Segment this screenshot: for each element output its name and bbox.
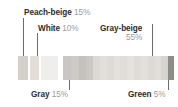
strip-segment-gray-4 (86, 56, 93, 80)
callout-name-green: Green (128, 90, 151, 99)
callout-label-green: Green 5% (128, 90, 165, 99)
strip-segment-gray-beige-4 (114, 56, 121, 80)
strip-segment-gray-beige-5 (120, 56, 127, 80)
strip-segment-gray-beige-6 (127, 56, 134, 80)
strip-segment-gray-beige-7 (134, 56, 141, 80)
callout-pct-gray: 15% (52, 90, 68, 99)
strip-segment-peach-beige (30, 56, 39, 80)
callout-label-gray: Gray 15% (31, 90, 68, 99)
leader-line-white (37, 33, 38, 56)
strip-segment-gray-beige-1 (93, 56, 100, 80)
strip-segment-gray-1 (63, 56, 71, 80)
strip-segment-gray-beige-11 (161, 56, 168, 80)
callout-name-peach-beige: Peach-beige (24, 8, 72, 17)
leader-line-gray-beige (152, 24, 153, 56)
strip-segment-gray-beige-2 (100, 56, 107, 80)
callout-pct-white: 10% (62, 24, 78, 33)
chart-figure: Peach-beige 15% White 10% Gray-beige 55%… (0, 0, 178, 107)
callout-pct-gray-beige: 55% (100, 33, 142, 42)
strip-segment-gray-2 (71, 56, 79, 80)
callout-name-white: White (38, 24, 60, 33)
callout-pct-peach-beige: 15% (74, 8, 90, 17)
callout-name-gray: Gray (31, 90, 49, 99)
callout-label-gray-beige: Gray-beige 55% (100, 24, 142, 42)
color-strip-right (63, 56, 174, 80)
strip-segment-gray-beige-8 (141, 56, 148, 80)
callout-name-gray-beige: Gray-beige (100, 24, 142, 33)
strip-segment-gray-beige-9 (148, 56, 155, 80)
strip-segment-gray-beige-3 (107, 56, 114, 80)
strip-segment-green (168, 56, 174, 80)
strip-segment-gray-beige-10 (155, 56, 162, 80)
callout-label-white: White 10% (38, 24, 79, 33)
leader-line-peach-beige (23, 18, 24, 56)
strip-segment-white (41, 56, 58, 80)
callout-pct-green: 5% (154, 90, 166, 99)
color-strip-left (18, 56, 58, 80)
strip-segment-gray-3 (79, 56, 87, 80)
strip-segment-gray-beige (18, 56, 28, 80)
callout-label-peach-beige: Peach-beige 15% (24, 8, 90, 17)
